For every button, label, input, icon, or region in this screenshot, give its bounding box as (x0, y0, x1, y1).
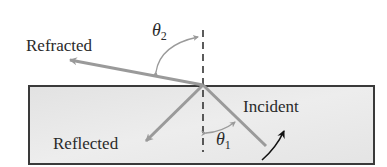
refraction-diagram: Refracted Reflected Incident θ2 θ1 (0, 0, 387, 167)
refracted-ray (70, 60, 203, 85)
incident-label: Incident (243, 98, 299, 115)
theta1-label: θ1 (216, 130, 231, 151)
theta2-subscript: 2 (161, 29, 167, 43)
theta2-label: θ2 (152, 21, 167, 42)
refracted-label: Refracted (26, 37, 92, 54)
reflected-label: Reflected (53, 135, 118, 152)
theta2-symbol: θ (152, 20, 161, 40)
theta1-symbol: θ (216, 129, 225, 149)
theta1-subscript: 1 (225, 138, 231, 152)
